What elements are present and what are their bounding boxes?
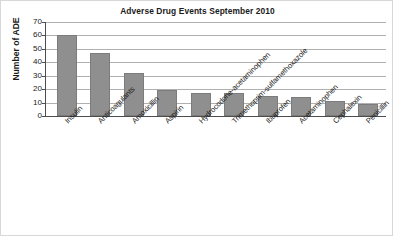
y-tick-mark [42,116,45,117]
y-tick-label: 50 [24,45,42,53]
y-tick-mark [42,89,45,90]
y-tick-mark [42,76,45,77]
y-tick-mark [42,49,45,50]
bar-chart: Adverse Drug Events September 2010 Numbe… [0,0,393,236]
y-tick-mark [42,22,45,23]
y-tick-label: 30 [24,72,42,80]
y-tick-label: 10 [24,99,42,107]
gridline [45,35,386,36]
y-axis-tick-labels: 010203040506070 [22,22,42,116]
y-tick-label: 0 [24,112,42,120]
y-axis-label: Number of ADE [11,0,21,99]
chart-title: Adverse Drug Events September 2010 [1,6,393,16]
y-tick-mark [42,62,45,63]
gridline [45,22,386,23]
y-tick-mark [42,103,45,104]
bar [57,35,77,116]
y-tick-label: 70 [24,18,42,26]
y-tick-label: 40 [24,58,42,66]
y-tick-label: 60 [24,31,42,39]
y-tick-mark [42,35,45,36]
y-tick-label: 20 [24,85,42,93]
y-axis-line [45,22,46,116]
gridline [45,49,386,50]
